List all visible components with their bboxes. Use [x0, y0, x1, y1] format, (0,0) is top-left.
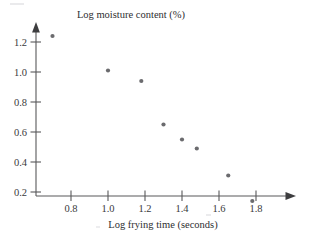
x-tick-label: 1.6 [212, 203, 225, 214]
x-axis-tick-labels: 0.8 1.0 1.2 1.4 1.6 1.8 [64, 203, 262, 214]
y-axis-title: Log moisture content (%) [77, 9, 186, 21]
scatter-plot-figure: 1.2 1.0 0.8 0.6 0.4 0.2 0.8 1.0 1.2 1.4 … [0, 0, 318, 233]
x-tick-label: 1.4 [175, 203, 189, 214]
y-tick-label: 0.8 [14, 97, 27, 108]
x-axis-title: Log frying time (seconds) [108, 219, 218, 231]
y-tick-label: 0.2 [14, 187, 27, 198]
data-point [250, 199, 254, 203]
data-point [139, 79, 143, 83]
x-tick-label: 1.8 [249, 203, 262, 214]
y-tick-label: 1.0 [14, 67, 27, 78]
data-point [106, 68, 110, 72]
y-tick-label: 0.4 [14, 157, 28, 168]
x-tick-label: 0.8 [64, 203, 77, 214]
x-axis [36, 192, 296, 200]
data-point-series [50, 34, 254, 203]
data-point [50, 34, 54, 38]
x-tick-label: 1.2 [138, 203, 151, 214]
x-tick-label: 1.0 [101, 203, 114, 214]
data-point [195, 146, 199, 150]
y-tick-label: 0.6 [14, 127, 27, 138]
y-axis [32, 22, 40, 196]
data-point [180, 137, 184, 141]
data-point [226, 173, 230, 177]
y-axis-tick-labels: 1.2 1.0 0.8 0.6 0.4 0.2 [14, 37, 28, 198]
plot-canvas: 1.2 1.0 0.8 0.6 0.4 0.2 0.8 1.0 1.2 1.4 … [0, 0, 318, 233]
scan-artifacts [10, 3, 211, 228]
y-tick-label: 1.2 [14, 37, 27, 48]
data-point [161, 122, 165, 126]
